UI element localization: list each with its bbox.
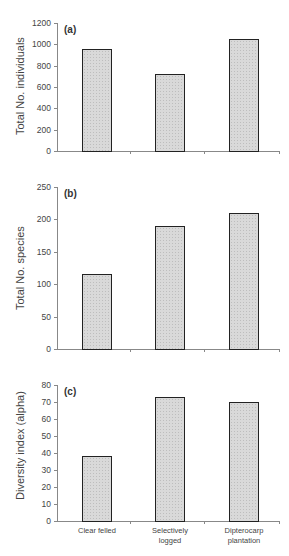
bar-selectively-logged [155, 74, 185, 152]
y-tick [54, 453, 57, 454]
y-tick [54, 87, 57, 88]
y-tick-label: 50 [23, 431, 51, 441]
y-tick-label: 150 [23, 247, 51, 257]
y-tick-label: 800 [23, 61, 51, 71]
x-tick [204, 349, 205, 352]
bar-clear-felled [82, 274, 112, 350]
panel-label: (c) [64, 386, 76, 397]
bar-dipterocarp-plantation [229, 402, 259, 522]
y-tick-label: 70 [23, 397, 51, 407]
y-tick-label: 400 [23, 103, 51, 113]
y-tick [54, 385, 57, 386]
y-tick [54, 187, 57, 188]
bar-dipterocarp-plantation [229, 213, 259, 350]
y-tick [54, 44, 57, 45]
y-tick [54, 317, 57, 318]
y-tick-label: 200 [23, 125, 51, 135]
y-tick [54, 66, 57, 67]
y-tick [54, 470, 57, 471]
y-tick [54, 219, 57, 220]
y-tick-label: 10 [23, 499, 51, 509]
y-tick-label: 100 [23, 279, 51, 289]
y-tick [54, 349, 57, 350]
panel-label: (b) [64, 188, 77, 199]
y-tick [54, 436, 57, 437]
x-tick [130, 349, 131, 352]
bar-selectively-logged [155, 397, 185, 522]
x-tick [130, 151, 131, 154]
y-tick-label: 50 [23, 312, 51, 322]
y-tick [54, 521, 57, 522]
y-tick [54, 419, 57, 420]
y-tick-label: 60 [23, 414, 51, 424]
bar-selectively-logged [155, 226, 185, 350]
x-category-label: Clear felled [62, 526, 132, 536]
x-tick [279, 521, 280, 524]
x-tick [204, 151, 205, 154]
y-tick-label: 0 [23, 344, 51, 354]
bar-dipterocarp-plantation [229, 39, 259, 152]
x-tick [204, 521, 205, 524]
y-axis-line [57, 385, 58, 521]
y-tick [54, 23, 57, 24]
y-tick [54, 252, 57, 253]
y-axis-title: Total No. species [14, 226, 26, 310]
y-tick-label: 30 [23, 465, 51, 475]
y-tick-label: 40 [23, 448, 51, 458]
x-tick [279, 151, 280, 154]
y-tick-label: 250 [23, 182, 51, 192]
x-tick [279, 349, 280, 352]
y-tick-label: 20 [23, 482, 51, 492]
panel-label: (a) [64, 24, 76, 35]
y-tick-label: 0 [23, 146, 51, 156]
x-category-label: Selectively logged [135, 526, 205, 546]
y-tick [54, 108, 57, 109]
y-tick-label: 0 [23, 516, 51, 526]
y-tick [54, 284, 57, 285]
y-axis-line [57, 23, 58, 151]
x-category-label: Dipterocarp plantation [209, 526, 279, 546]
x-tick [130, 521, 131, 524]
y-tick-label: 1200 [23, 18, 51, 28]
y-tick [54, 402, 57, 403]
y-tick [54, 487, 57, 488]
y-tick-label: 600 [23, 82, 51, 92]
bar-clear-felled [82, 49, 112, 152]
y-tick-label: 1000 [23, 39, 51, 49]
y-tick [54, 504, 57, 505]
y-tick [54, 151, 57, 152]
y-axis-line [57, 187, 58, 349]
y-axis-title: Total No. individuals [14, 37, 26, 135]
y-axis-title: Diversity index (alpha) [14, 391, 26, 500]
y-tick-label: 80 [23, 380, 51, 390]
y-tick-label: 200 [23, 214, 51, 224]
bar-clear-felled [82, 456, 112, 522]
y-tick [54, 130, 57, 131]
